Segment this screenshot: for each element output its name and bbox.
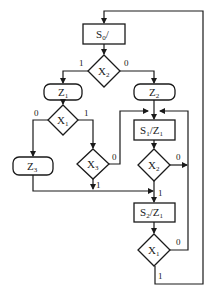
decision-diamond-x3: X3 <box>77 149 109 179</box>
edge-x2-top-1 <box>63 71 88 83</box>
edge-label-x1-left-0: 0 <box>34 108 39 118</box>
edge-label-x3-1: 1 <box>96 180 101 190</box>
edge-x1-left-1 <box>78 120 93 148</box>
edge-label-x2-top-1: 1 <box>79 58 84 68</box>
edge-label-x2-low-1: 1 <box>158 188 163 198</box>
edge-label-x3-0: 0 <box>112 152 117 162</box>
edge-label-x1-left-1: 1 <box>84 108 89 118</box>
edge-label-x1-low-1: 1 <box>158 271 163 281</box>
decision-diamond-x1-left: X1 <box>48 105 78 135</box>
decision-diamond-x2-low: X2 <box>138 149 170 181</box>
output-box-z3: Z3 <box>13 157 53 175</box>
output-box-z1: Z1 <box>44 84 82 100</box>
edge-label-x2-top-0: 0 <box>124 58 129 68</box>
state-box-s1: S1/Z1 <box>134 120 175 140</box>
edge-label-x1-low-0: 0 <box>176 237 181 247</box>
state-box-s2: S2/Z1 <box>134 203 175 222</box>
edge-label-x2-low-0: 0 <box>176 152 181 162</box>
asm-flowchart: S0/ X2 1 0 Z1 Z2 X1 0 1 Z3 X3 0 <box>0 0 212 294</box>
decision-diamond-x1-low: X1 <box>138 234 170 266</box>
output-box-z2: Z2 <box>134 84 175 100</box>
state-box-s0: S0/ <box>83 24 125 44</box>
decision-diamond-x2-top: X2 <box>88 55 120 87</box>
edge-x2-top-0 <box>120 71 154 83</box>
edge-x1-left-0 <box>33 120 48 156</box>
